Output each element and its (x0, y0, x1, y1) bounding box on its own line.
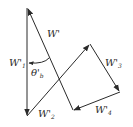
label-w1: W'1 (9, 58, 26, 69)
label-w3: W'3 (105, 58, 122, 69)
label-w2: W'2 (38, 109, 55, 120)
label-theta-b: θ'b (31, 68, 44, 79)
vector-w2 (27, 45, 89, 116)
vector-w-prime (28, 9, 73, 110)
label-w-prime: W' (47, 29, 60, 39)
angle-arc (29, 58, 49, 63)
label-w4: W'4 (95, 105, 112, 116)
